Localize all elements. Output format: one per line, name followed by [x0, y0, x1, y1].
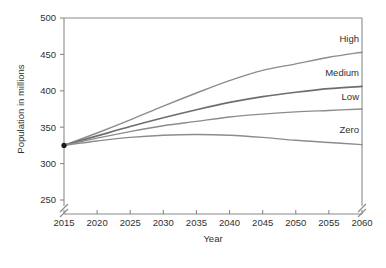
x-tick-label: 2055 — [318, 217, 339, 228]
series-label-low: Low — [342, 91, 360, 102]
x-tick-label: 2030 — [153, 217, 174, 228]
population-projection-chart: 2503003504004505002015202020252030203520… — [0, 0, 386, 268]
x-tick-label: 2045 — [252, 217, 273, 228]
y-tick-label: 400 — [40, 85, 56, 96]
x-tick-label: 2040 — [219, 217, 240, 228]
series-line-high — [64, 52, 362, 145]
y-tick-label: 500 — [40, 12, 56, 23]
y-tick-label: 450 — [40, 49, 56, 60]
x-tick-label: 2025 — [120, 217, 141, 228]
x-tick-label: 2020 — [87, 217, 108, 228]
series-label-medium: Medium — [325, 67, 359, 78]
series-label-high: High — [339, 33, 359, 44]
x-tick-label: 2060 — [351, 217, 372, 228]
series-line-medium — [64, 86, 362, 145]
y-tick-label: 300 — [40, 158, 56, 169]
y-tick-label: 350 — [40, 122, 56, 133]
x-tick-label: 2050 — [285, 217, 306, 228]
x-axis-title: Year — [203, 233, 222, 244]
start-point-marker — [61, 143, 66, 148]
series-label-zero: Zero — [339, 124, 359, 135]
y-tick-label: 250 — [40, 194, 56, 205]
x-tick-label: 2035 — [186, 217, 207, 228]
chart-canvas: 2503003504004505002015202020252030203520… — [0, 0, 386, 268]
x-tick-label: 2015 — [53, 217, 74, 228]
y-axis-title: Population in millions — [15, 64, 26, 153]
